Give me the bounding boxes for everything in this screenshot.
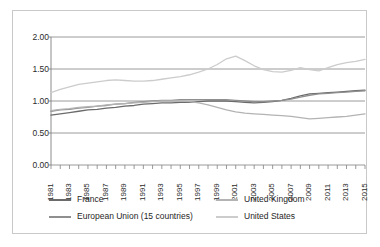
legend-color-swatch [216,216,238,218]
plot-area: 2.001.501.000.500.00 1981198319851987198… [13,11,368,181]
legend-color-swatch [49,216,71,218]
legend-color-swatch [49,199,71,201]
legend-item[interactable]: United Kingdom [216,195,304,204]
legend-color-swatch [216,199,238,201]
legend-item[interactable]: European Union (15 countries) [49,212,193,221]
legend-label: France [77,195,103,204]
legend-label: United Kingdom [244,195,304,204]
legend-label: United States [244,212,295,221]
legend-item[interactable]: United States [216,212,295,221]
series-line-united-kingdom [51,101,365,119]
legend-label: European Union (15 countries) [77,212,193,221]
chart-card: 2.001.501.000.500.00 1981198319851987198… [12,10,367,234]
legend-item[interactable]: France [49,195,103,204]
series-line-united-states [51,56,365,92]
chart-legend: FranceEuropean Union (15 countries)Unite… [13,193,368,234]
